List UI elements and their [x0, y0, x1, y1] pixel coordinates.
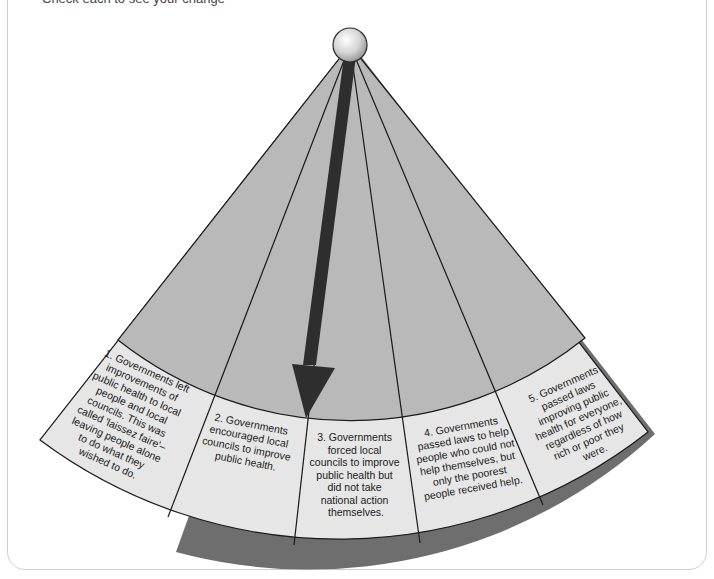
fan-upper-region: [118, 45, 585, 421]
government-intervention-spectrum: 1. Governments left improvements of publ…: [0, 0, 714, 579]
pivot-knob: [333, 28, 367, 62]
